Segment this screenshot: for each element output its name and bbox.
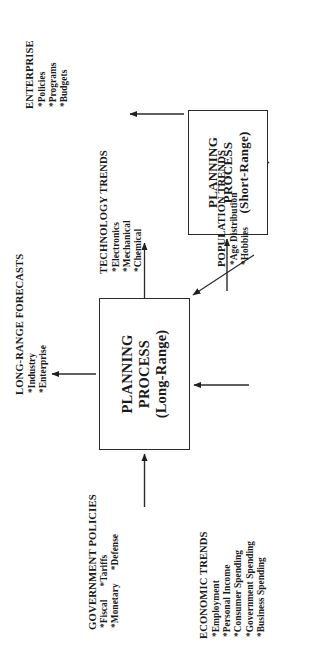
- government-policies-row-2: *Monetary *Defense: [110, 494, 121, 630]
- label-population-trends: POPULATION TRENDS *Age Distribution *Hob…: [216, 150, 251, 267]
- long-range-forecasts-item-enterprise: *Enterprise: [37, 254, 48, 395]
- technology-trends-item-mechanical: *Mechanical: [121, 150, 132, 274]
- government-policies-header: GOVERNMENT POLICIES: [86, 494, 99, 630]
- diagram-canvas: PLANNING PROCESS (Long-Range) PLANNING P…: [2, 0, 318, 647]
- label-government-policies: GOVERNMENT POLICIES *Fiscal *Tariffs *Mo…: [86, 494, 122, 630]
- label-economic-trends: ECONOMIC TRENDS *Employment *Personal In…: [198, 531, 267, 639]
- process-box-long-range[interactable]: PLANNING PROCESS (Long-Range): [99, 298, 190, 450]
- population-trends-item-hobbies: *Hobbies: [239, 150, 250, 267]
- enterprise-item-budgets: *Budgets: [59, 40, 70, 109]
- box-long-line3: (Long-Range): [153, 330, 170, 419]
- enterprise-header: ENTERPRISE: [24, 40, 37, 109]
- technology-trends-item-chemical: *Chemical: [133, 150, 144, 274]
- government-policies-item-monetary: *Monetary: [110, 583, 121, 628]
- economic-trends-item-business-spending: *Business Spending: [255, 531, 266, 639]
- long-range-forecasts-item-industry: *Industry: [26, 254, 37, 395]
- economic-trends-header: ECONOMIC TRENDS: [198, 531, 211, 639]
- long-range-forecasts-header: LONG-RANGE FORECASTS: [14, 254, 27, 395]
- box-long-line2: PROCESS: [135, 340, 152, 408]
- economic-trends-item-consumer-spending: *Consumer Spending: [233, 531, 244, 639]
- government-policies-item-defense: *Defense: [110, 534, 121, 570]
- label-long-range-forecasts: LONG-RANGE FORECASTS *Industry *Enterpri…: [14, 254, 49, 395]
- technology-trends-item-electronics: *Electronics: [110, 150, 121, 274]
- economic-trends-item-employment: *Employment: [210, 531, 221, 639]
- enterprise-item-policies: *Policies: [36, 40, 47, 109]
- label-enterprise: ENTERPRISE *Policies *Programs *Budgets: [24, 40, 71, 109]
- enterprise-item-programs: *Programs: [47, 40, 58, 109]
- label-technology-trends: TECHNOLOGY TRENDS *Electronics *Mechanic…: [98, 150, 145, 274]
- diagram-stage: PLANNING PROCESS (Long-Range) PLANNING P…: [2, 0, 318, 647]
- government-policies-row-1: *Fiscal *Tariffs: [98, 494, 109, 630]
- box-long-line1: PLANNING: [118, 335, 135, 414]
- population-trends-item-age-distribution: *Age Distribution: [228, 150, 239, 267]
- government-policies-item-tariffs: *Tariffs: [98, 555, 109, 587]
- technology-trends-header: TECHNOLOGY TRENDS: [98, 150, 111, 274]
- economic-trends-item-personal-income: *Personal Income: [221, 531, 232, 639]
- economic-trends-item-government-spending: *Government Spending: [244, 531, 255, 639]
- government-policies-item-fiscal: *Fiscal: [98, 600, 109, 628]
- population-trends-header: POPULATION TRENDS: [216, 150, 229, 267]
